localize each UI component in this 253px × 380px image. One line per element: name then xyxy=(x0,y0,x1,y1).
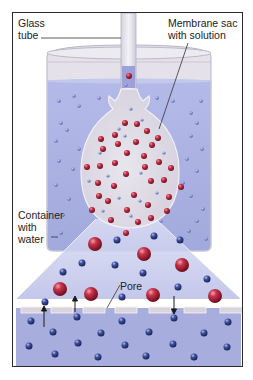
label-container-with-water: Container with water xyxy=(18,209,64,245)
membrane-with-pores xyxy=(16,307,242,367)
label-glass-tube: Glass tube xyxy=(18,17,45,41)
osmosis-illustration xyxy=(13,13,243,367)
diagram-frame: Glass tube Membrane sac with solution Co… xyxy=(12,12,243,367)
label-membrane-sac: Membrane sac with solution xyxy=(168,17,237,41)
glass-tube xyxy=(121,13,136,91)
label-pore: Pore xyxy=(120,280,142,292)
